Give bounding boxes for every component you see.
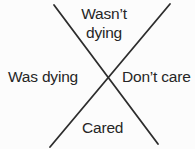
label-right-dont-care: Don’t care (122, 67, 191, 86)
label-top-wasnt-dying: Wasn’t dying (73, 4, 135, 42)
label-bottom-cared: Cared (82, 118, 123, 137)
label-left-was-dying: Was dying (8, 67, 78, 86)
quadrant-diagram: Wasn’t dying Was dying Don’t care Cared (0, 0, 195, 149)
